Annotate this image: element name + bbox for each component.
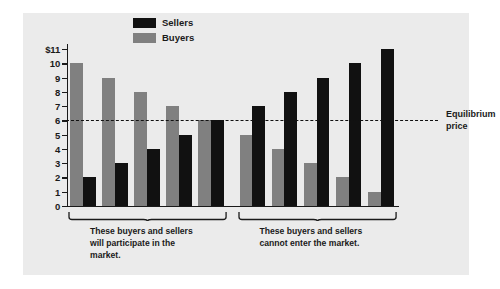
bar-sellers: [284, 92, 297, 206]
caption-excluded: These buyers and sellerscannot enter the…: [260, 225, 395, 249]
legend-label-sellers: Sellers: [162, 17, 193, 28]
legend-swatch-sellers: [133, 18, 156, 28]
equilibrium-price-label: Equilibrium price: [446, 109, 500, 132]
bar-pair: [304, 49, 336, 206]
bar-sellers: [179, 135, 192, 206]
legend-swatch-buyers: [133, 33, 156, 43]
x-axis-line: [67, 206, 399, 207]
caption-participating: These buyers and sellerswill participate…: [90, 225, 225, 261]
legend-label-buyers: Buyers: [162, 32, 194, 43]
bar-sellers: [211, 120, 224, 206]
bar-sellers: [381, 49, 394, 206]
caption-line-3: market.: [90, 249, 225, 261]
bar-buyers: [134, 92, 147, 206]
bar-buyers: [102, 78, 115, 206]
y-tick-label: 8: [55, 86, 60, 97]
caption-emphasis: will: [90, 238, 104, 248]
bar-sellers: [147, 149, 160, 206]
caption-line-2: will participate in the: [90, 237, 225, 249]
chart-legend: Sellers Buyers: [133, 17, 194, 47]
chart-plot-area: $11109876543210 Equilibrium price: [68, 49, 398, 206]
bar-buyers: [240, 135, 253, 206]
bar-pair: [272, 49, 304, 206]
bar-pair: [70, 49, 102, 206]
bar-pair: [166, 49, 198, 206]
caption-line-2: cannot enter the market.: [260, 237, 395, 249]
equilibrium-price-line: [66, 120, 438, 121]
y-tick-label: 2: [55, 172, 60, 183]
bar-sellers: [83, 177, 96, 206]
caption-line-1: These buyers and sellers: [260, 225, 395, 237]
bar-pair: [102, 49, 134, 206]
equilibrium-label-line1: Equilibrium: [446, 109, 500, 121]
bar-pair: [240, 49, 272, 206]
legend-item-sellers: Sellers: [133, 17, 194, 28]
y-tick-mark: [62, 206, 68, 207]
caption-rest: participate in the: [104, 238, 175, 248]
y-tick-label: 6: [55, 115, 60, 126]
bar-buyers: [70, 63, 83, 206]
brace-participating: [68, 212, 227, 220]
caption-line-1: These buyers and sellers: [90, 225, 225, 237]
y-tick-label: 9: [55, 72, 60, 83]
bar-pair: [336, 49, 368, 206]
y-tick-label: 10: [50, 58, 60, 69]
bar-pair: [368, 49, 400, 206]
equilibrium-label-line2: price: [446, 120, 500, 132]
legend-item-buyers: Buyers: [133, 32, 194, 43]
bar-series-container: [68, 49, 398, 206]
chart-figure: Sellers Buyers $11109876543210 Equilibri…: [23, 13, 469, 275]
bar-pair: [134, 49, 166, 206]
y-tick-label: 5: [55, 129, 60, 140]
caption-rest: enter the market.: [288, 238, 360, 248]
bar-buyers: [198, 120, 211, 206]
caption-emphasis: cannot: [260, 238, 288, 248]
bar-pair: [198, 49, 230, 206]
bar-buyers: [368, 192, 381, 206]
bar-sellers: [317, 78, 330, 206]
bar-sellers: [349, 63, 362, 206]
bar-buyers: [304, 163, 317, 206]
brace-excluded: [238, 212, 397, 220]
y-tick-label: 3: [55, 158, 60, 169]
y-tick-label: 1: [55, 186, 60, 197]
y-tick-label: 0: [55, 201, 60, 212]
bar-sellers: [115, 163, 128, 206]
y-tick-label: $11: [45, 44, 60, 55]
y-tick-label: 7: [55, 101, 60, 112]
bar-buyers: [336, 177, 349, 206]
bar-buyers: [272, 149, 285, 206]
y-tick-label: 4: [55, 143, 60, 154]
